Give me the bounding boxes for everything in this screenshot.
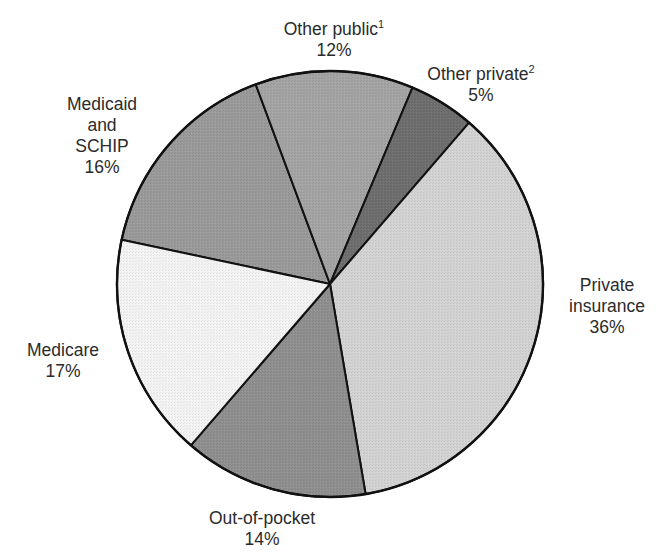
label-other-public: Other public1 12%: [284, 19, 384, 61]
label-other-private: Other private2 5%: [427, 64, 534, 106]
label-medicare: Medicare 17%: [27, 340, 99, 382]
label-medicaid-schip: Medicaid and SCHIP 16%: [67, 94, 137, 178]
pie-chart: [0, 0, 668, 559]
label-out-of-pocket: Out-of-pocket 14%: [209, 508, 315, 550]
footnote-2: 2: [529, 63, 535, 75]
label-private-insurance: Private insurance 36%: [569, 275, 645, 338]
footnote-1: 1: [378, 18, 384, 30]
